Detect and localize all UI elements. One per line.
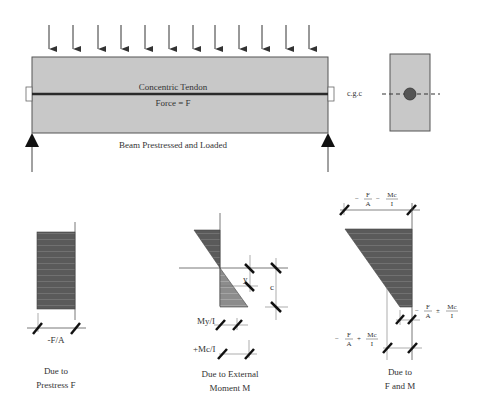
numerator: F — [366, 191, 370, 199]
numerator: Mc — [367, 331, 376, 339]
numerator: Mc — [387, 191, 396, 199]
dimension-tick-icon — [245, 264, 254, 273]
sign: − — [335, 335, 339, 343]
top-stress-formula: − F A − Mc I — [355, 191, 398, 208]
numerator: Mc — [447, 303, 456, 311]
denominator: A — [365, 200, 370, 208]
sign: ± — [436, 307, 440, 315]
cross-section-group: c.g.c — [347, 54, 440, 131]
tendon-label: Concentric Tendon — [139, 82, 208, 92]
compression-triangle — [194, 230, 220, 268]
pin-support-icon — [321, 133, 335, 147]
diagram-caption-line1: Due to — [44, 366, 69, 376]
right-stress-formula: − F A ± Mc I — [415, 303, 458, 320]
diagram-caption-line2: F and M — [385, 381, 416, 391]
denominator: A — [346, 340, 351, 348]
sign: − — [376, 195, 380, 203]
my-over-i-label: My/I — [197, 316, 215, 326]
numerator: F — [426, 303, 430, 311]
dimension-tick-icon — [71, 323, 80, 334]
combined-stress-trapezoid — [345, 229, 412, 307]
bottom-stress-formula: − F A + Mc I — [335, 331, 378, 348]
mc-over-i-label: +Mc/I — [193, 344, 216, 354]
sign: − — [355, 195, 359, 203]
numerator: F — [347, 331, 351, 339]
pin-support-icon — [25, 133, 39, 147]
denominator: I — [391, 200, 394, 208]
tendon-dot-icon — [404, 88, 416, 100]
diagram-caption-line1: Due to External — [202, 369, 259, 379]
support-left — [25, 133, 39, 172]
anchor-plate-left — [26, 87, 32, 101]
c-label: c — [270, 282, 274, 292]
denominator: A — [425, 312, 430, 320]
denominator: I — [371, 340, 374, 348]
distributed-load-arrows — [49, 25, 309, 49]
diagram-caption-line2: Moment M — [210, 383, 251, 393]
cgc-label: c.g.c — [347, 89, 363, 98]
denominator: I — [451, 312, 454, 320]
diagram-caption-line2: Prestress F — [36, 380, 75, 390]
anchor-plate-right — [328, 87, 334, 101]
stress-diagram-moment: y c My/I +Mc/I Due to External Moment M — [179, 213, 288, 393]
stress-diagram-prestress: -F/A Due to Prestress F — [27, 222, 86, 390]
beam-caption: Beam Prestressed and Loaded — [119, 140, 228, 150]
sign: + — [357, 335, 361, 343]
force-label: Force = F — [155, 98, 190, 108]
diagram-caption-line1: Due to — [388, 367, 413, 377]
uniform-compression-block — [37, 232, 75, 309]
stress-diagram-combined: − F A − Mc I − F A ± Mc I — [335, 191, 458, 391]
stress-label: -F/A — [47, 335, 65, 345]
y-label: y — [243, 274, 248, 284]
sign: − — [415, 307, 419, 315]
dimension-tick-icon — [33, 323, 42, 334]
beam-group: Concentric Tendon Force = F Beam Prestre… — [25, 25, 335, 172]
support-right — [321, 133, 335, 172]
prestressed-beam-diagram: Concentric Tendon Force = F Beam Prestre… — [0, 0, 483, 412]
